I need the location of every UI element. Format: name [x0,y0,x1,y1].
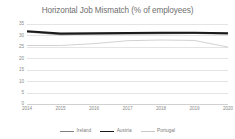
chart-legend: IrelandAustriaPortugal [0,126,235,136]
legend-swatch-ireland [60,131,74,132]
legend-item-austria[interactable]: Austria [100,128,131,134]
legend-swatch-portugal [141,131,155,132]
series-layer [0,0,235,139]
series-line-portugal [27,40,228,47]
chart-container: Horizontal Job Mismatch (% of employees)… [0,0,235,139]
legend-item-ireland[interactable]: Ireland [60,128,91,134]
legend-item-portugal[interactable]: Portugal [141,128,175,134]
series-line-austria [27,31,228,33]
legend-swatch-austria [100,131,114,132]
legend-label: Austria [117,128,132,134]
legend-label: Portugal [157,128,175,134]
legend-label: Ireland [77,128,92,134]
